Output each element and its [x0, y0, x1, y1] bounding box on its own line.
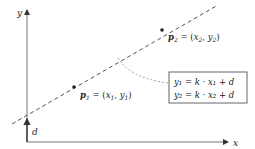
connector-curve [118, 58, 168, 83]
point-p1-dot [72, 85, 76, 89]
y-axis-label: y [16, 8, 23, 18]
x-axis-label: x [233, 138, 238, 148]
dashed-function-line [12, 5, 218, 124]
equation-1: y₁ = k · x₁ + d [173, 77, 235, 87]
point-p2-dot [160, 28, 164, 32]
diagram-canvas: y x d p1 = (x1, y1) p2 = (x2, y2) y₁ = k… [0, 0, 255, 149]
point-p1-label: p1 = (x1, y1) [80, 90, 132, 101]
point-p2-label: p2 = (x2, y2) [168, 32, 220, 43]
equation-2: y₂ = k · x₂ + d [173, 90, 235, 100]
intercept-label: d [32, 127, 38, 137]
